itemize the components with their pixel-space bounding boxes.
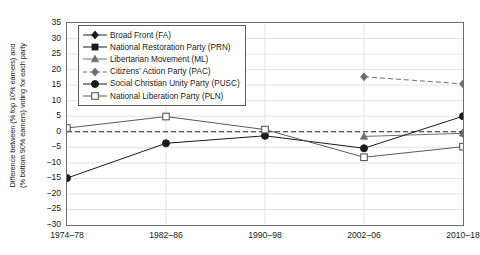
y-axis-tick-labels: 35302520151050−5−10−15−20−25−30	[34, 16, 64, 232]
x-axis-tick-labels: 1974–781982–861990–982002–062010–18	[66, 230, 464, 246]
data-point-marker	[262, 126, 269, 133]
legend-item-pac[interactable]: Citizens’ Action Party (PAC)	[82, 66, 240, 78]
legend-item-pln[interactable]: National Liberation Party (PLN)	[82, 90, 240, 102]
x-tick-label: 2002–06	[347, 230, 380, 240]
x-tick-label: 1982–86	[149, 230, 182, 240]
x-tick-label: 1990–98	[248, 230, 281, 240]
legend-item-pusc[interactable]: Social Christian Unity Party (PUSC)	[82, 78, 240, 90]
y-tick-label: 5	[56, 111, 61, 120]
y-tick-label: 0	[56, 126, 61, 135]
y-tick-label: −15	[46, 173, 61, 182]
y-axis-title: Difference between (% top 10% earners) a…	[0, 0, 34, 232]
y-tick-label: 35	[51, 18, 61, 27]
legend-marker-prn-icon	[82, 41, 108, 53]
legend-marker-pusc-icon	[82, 78, 108, 90]
legend-key-svg	[82, 90, 108, 102]
series-line	[364, 77, 463, 84]
x-tick-label: 2010–18	[446, 230, 479, 240]
legend-marker-fa-icon	[82, 29, 108, 41]
data-point-marker	[460, 80, 463, 88]
data-point-marker	[92, 68, 99, 76]
data-point-marker	[92, 44, 98, 50]
y-tick-label: 20	[51, 64, 61, 73]
chart-legend: Broad Front (FA)National Restoration Par…	[78, 25, 246, 106]
legend-label: National Liberation Party (PLN)	[108, 92, 223, 101]
legend-label: Citizens’ Action Party (PAC)	[108, 67, 211, 76]
y-tick-label: −30	[46, 220, 61, 229]
y-tick-label: 10	[51, 95, 61, 104]
data-point-marker	[67, 125, 70, 132]
legend-marker-pln-icon	[82, 90, 108, 102]
y-tick-label: 30	[51, 33, 61, 42]
data-point-marker	[163, 113, 170, 120]
legend-key-svg	[82, 66, 108, 78]
legend-key-svg	[82, 53, 108, 65]
y-axis-title-line-2: (% bottom 90% earners) voting for each p…	[17, 44, 27, 189]
y-tick-label: −10	[46, 158, 61, 167]
legend-marker-pac-icon	[82, 66, 108, 78]
y-tick-label: −25	[46, 204, 61, 213]
data-point-marker	[91, 80, 98, 87]
x-tick-label: 1974–78	[50, 230, 83, 240]
legend-label: Libertarian Movement (ML)	[108, 55, 208, 64]
legend-key-svg	[82, 29, 108, 41]
data-point-marker	[361, 154, 368, 161]
data-point-marker	[67, 174, 71, 181]
series-ml	[360, 130, 463, 140]
legend-item-ml[interactable]: Libertarian Movement (ML)	[82, 53, 240, 65]
legend-item-prn[interactable]: National Restoration Party (PRN)	[82, 41, 240, 53]
y-tick-label: −20	[46, 189, 61, 198]
data-point-marker	[460, 143, 463, 150]
data-point-marker	[92, 31, 99, 39]
legend-label: National Restoration Party (PRN)	[108, 43, 231, 52]
series-pac	[361, 73, 463, 88]
y-tick-label: −5	[51, 142, 61, 151]
series-line	[364, 133, 463, 136]
y-axis-title-line-1: Difference between (% top 10% earners) a…	[7, 44, 17, 189]
data-point-marker	[459, 113, 463, 120]
legend-label: Social Christian Unity Party (PUSC)	[108, 79, 240, 88]
legend-item-fa[interactable]: Broad Front (FA)	[82, 29, 240, 41]
legend-key-svg	[82, 78, 108, 90]
data-point-marker	[162, 140, 169, 147]
y-tick-label: 15	[51, 80, 61, 89]
data-point-marker	[360, 145, 367, 152]
y-tick-label: 25	[51, 49, 61, 58]
legend-key-svg	[82, 41, 108, 53]
data-point-marker	[361, 73, 368, 81]
legend-marker-ml-icon	[82, 53, 108, 65]
data-point-marker	[92, 93, 99, 100]
legend-label: Broad Front (FA)	[108, 31, 171, 40]
